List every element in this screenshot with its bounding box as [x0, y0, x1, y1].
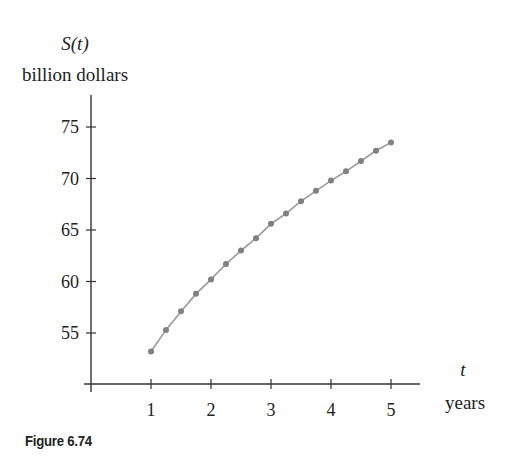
x-tick-label: 3	[267, 400, 276, 420]
data-point	[148, 349, 154, 355]
data-point	[313, 188, 319, 194]
figure-caption: Figure 6.74	[25, 432, 92, 449]
data-point	[193, 291, 199, 297]
data-series	[148, 139, 394, 354]
y-tick-label: 60	[61, 272, 79, 292]
data-point	[223, 261, 229, 267]
data-point	[298, 198, 304, 204]
axes	[84, 95, 420, 392]
y-tick-label: 70	[61, 169, 79, 189]
x-tick-label: 5	[387, 400, 396, 420]
x-tick-label: 1	[147, 400, 156, 420]
y-tick-label: 55	[61, 323, 79, 343]
ticks: 556065707512345	[61, 117, 396, 420]
data-point	[343, 168, 349, 174]
line-chart: S(t) billion dollars t years 55606570751…	[0, 0, 507, 467]
data-point	[358, 158, 364, 164]
y-tick-label: 65	[61, 220, 79, 240]
y-axis-label: billion dollars	[22, 64, 128, 85]
data-point	[208, 276, 214, 282]
y-tick-label: 75	[61, 117, 79, 137]
data-point	[238, 248, 244, 254]
x-axis-symbol: t	[460, 359, 466, 380]
series-line	[151, 142, 391, 351]
data-point	[283, 211, 289, 217]
data-point	[268, 221, 274, 227]
x-axis-label: years	[445, 392, 485, 413]
data-point	[178, 308, 184, 314]
data-point	[373, 148, 379, 154]
data-point	[328, 178, 334, 184]
x-tick-label: 2	[207, 400, 216, 420]
x-tick-label: 4	[327, 400, 336, 420]
y-axis-symbol: S(t)	[61, 33, 88, 55]
data-point	[253, 235, 259, 241]
data-point	[388, 139, 394, 145]
data-point	[163, 327, 169, 333]
